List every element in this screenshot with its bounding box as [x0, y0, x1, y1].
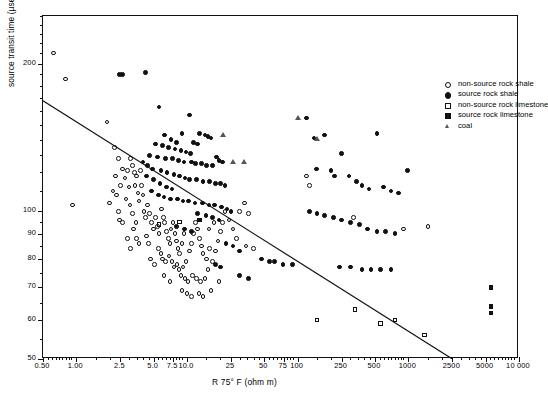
y-axis-tick [40, 86, 43, 87]
y-axis-tick [38, 259, 43, 260]
x-axis-tick [149, 357, 150, 360]
y-axis-tick [40, 53, 43, 54]
x-axis-label: R 75° F (ohm m) [212, 377, 277, 387]
legend-item-coal: coal [445, 121, 548, 131]
x-axis-tick [403, 357, 404, 360]
x-axis-tick [206, 357, 207, 360]
x-axis-tick-label: 10.0 [162, 362, 210, 370]
y-axis-tick [40, 172, 43, 173]
x-axis-tick [66, 357, 67, 360]
y-axis-tick [40, 140, 43, 141]
x-axis-tick [179, 357, 180, 360]
x-axis-tick [56, 357, 57, 360]
x-axis-tick [240, 357, 241, 360]
x-axis-tick [137, 357, 138, 360]
y-axis-tick-label: 70 [12, 282, 36, 290]
x-axis-tick [170, 357, 171, 360]
x-axis-tick [475, 357, 476, 360]
y-axis-tick [40, 74, 43, 75]
x-axis-tick [59, 357, 60, 360]
x-axis-tick-label: 10 000 [494, 362, 542, 370]
y-axis-tick [40, 25, 43, 26]
y-axis-tick-label: 200 [12, 59, 36, 67]
x-axis-tick [350, 357, 351, 360]
legend-item-non_source_shale: non-source rock shale [445, 79, 548, 89]
x-axis-tick [469, 357, 470, 360]
y-axis-tick [40, 246, 43, 247]
y-axis-tick [40, 16, 43, 17]
x-axis-tick [254, 357, 255, 360]
x-axis-tick [293, 357, 294, 360]
y-axis-tick [40, 98, 43, 99]
x-axis-tick [71, 357, 72, 360]
x-axis-tick [384, 357, 385, 360]
x-axis-tick [498, 357, 499, 360]
x-axis-tick [290, 357, 291, 360]
y-axis-tick [40, 43, 43, 44]
x-axis-tick [287, 357, 288, 360]
legend-label: source rock shale [458, 89, 518, 99]
y-axis-tick-label: 100 [12, 206, 36, 214]
x-axis-tick [358, 357, 359, 360]
x-axis-tick [52, 357, 53, 360]
y-axis-tick [40, 191, 43, 192]
legend-item-source_limestone: source rock limestone [445, 110, 548, 120]
x-axis-tick [281, 357, 282, 360]
x-axis-tick [428, 357, 429, 360]
legend-marker-filled-circle-icon [445, 92, 451, 98]
x-axis-tick [176, 357, 177, 360]
legend-item-source_shale: source rock shale [445, 89, 548, 99]
x-axis-tick [505, 357, 506, 360]
x-axis-tick [182, 357, 183, 360]
legend-label: non-source rock shale [458, 79, 534, 89]
x-axis-tick [398, 357, 399, 360]
y-axis-tick [40, 303, 43, 304]
y-axis-tick [38, 234, 43, 235]
y-axis-tick [40, 222, 43, 223]
x-axis-tick-label: 1.00 [51, 362, 99, 370]
x-axis-tick [162, 357, 163, 360]
y-axis-tick [40, 273, 43, 274]
x-axis-tick [331, 357, 332, 360]
y-axis-tick [38, 320, 43, 321]
x-axis-tick [502, 357, 503, 360]
x-axis-tick [69, 357, 70, 360]
x-axis-tick [508, 357, 509, 360]
legend-label: coal [458, 121, 472, 131]
legend-label: source rock limestone [458, 110, 533, 120]
x-axis-tick [220, 357, 221, 360]
x-axis-tick [388, 357, 389, 360]
x-axis-tick [380, 357, 381, 360]
x-axis-tick-label: 100 [273, 362, 321, 370]
legend-marker-open-triangle-icon [445, 124, 449, 128]
x-axis-tick [442, 357, 443, 360]
x-axis-tick [401, 357, 402, 360]
x-axis-tick [514, 357, 515, 360]
x-axis-tick [511, 357, 512, 360]
legend-label: non-source rock limestone [458, 100, 548, 110]
x-axis-tick [395, 357, 396, 360]
x-axis-tick [62, 357, 63, 360]
x-axis-tick [129, 357, 130, 360]
x-axis-tick [277, 357, 278, 360]
x-axis-tick-label: 1000 [383, 362, 431, 370]
x-axis-tick [259, 357, 260, 360]
y-axis-tick-label: 50 [12, 354, 36, 362]
x-axis-tick [317, 357, 318, 360]
y-axis-tick-label: 60 [12, 315, 36, 323]
x-axis-tick [494, 357, 495, 360]
x-axis-tick [96, 357, 97, 360]
plot-frame: non-source rock shalesource rock shaleno… [42, 15, 518, 358]
y-axis-tick [38, 359, 43, 360]
y-axis-tick [40, 339, 43, 340]
x-axis-tick [481, 357, 482, 360]
y-axis-tick [38, 287, 43, 288]
x-axis-tick [269, 357, 270, 360]
y-axis-tick [40, 34, 43, 35]
y-axis-tick [38, 64, 43, 65]
x-axis-tick [110, 357, 111, 360]
y-axis-label: source transit time (μsec/ft) [6, 0, 16, 105]
regression-line [43, 16, 519, 359]
legend-marker-filled-square-icon [445, 113, 451, 119]
